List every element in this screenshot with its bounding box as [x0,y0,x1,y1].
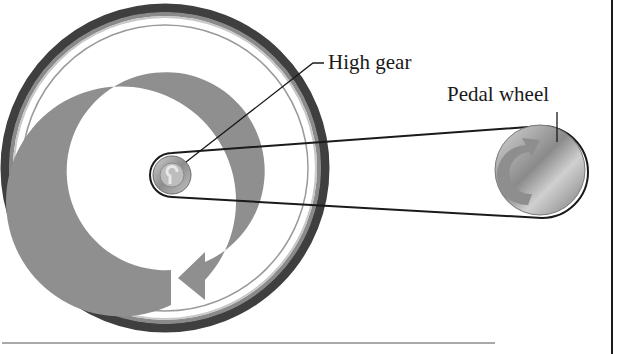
high-gear [153,156,191,194]
gear-diagram [0,0,621,354]
rotation-arrow-large-icon [6,72,265,316]
pedal-wheel-label: Pedal wheel [447,84,549,105]
pedal-wheel [495,125,585,215]
high-gear-label: High gear [328,52,411,73]
